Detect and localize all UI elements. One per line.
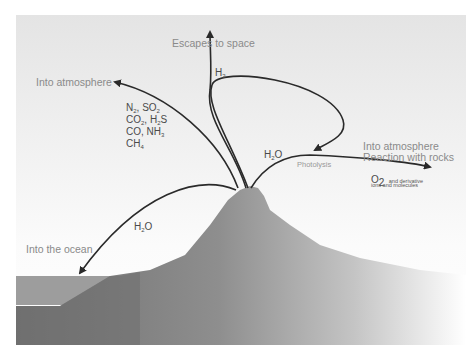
label-into-atmosphere-left: Into atmosphere: [36, 77, 112, 88]
gas-line-1: N2, SO2: [126, 102, 167, 114]
gas-line-3: CO, NH3: [126, 126, 167, 138]
gas-line-2: CO2, H2S: [126, 114, 167, 126]
label-h2: H2: [215, 68, 226, 78]
label-h2o-left: H2O: [134, 222, 152, 232]
label-h2o-right: H2O: [264, 150, 282, 160]
label-photolysis: Photolysis: [297, 161, 331, 169]
label-into-atmosphere-right: Into atmosphere: [363, 141, 439, 152]
label-escapes-to-space: Escapes to space: [172, 38, 255, 49]
label-ions-and-molecules: ions and molecules: [371, 183, 418, 189]
label-reaction-with-rocks: Reaction with rocks: [363, 152, 454, 163]
label-into-the-ocean: Into the ocean: [26, 244, 93, 255]
gas-line-4: CH4: [126, 138, 167, 150]
gas-species-list: N2, SO2 CO2, H2S CO, NH3 CH4: [126, 102, 167, 150]
